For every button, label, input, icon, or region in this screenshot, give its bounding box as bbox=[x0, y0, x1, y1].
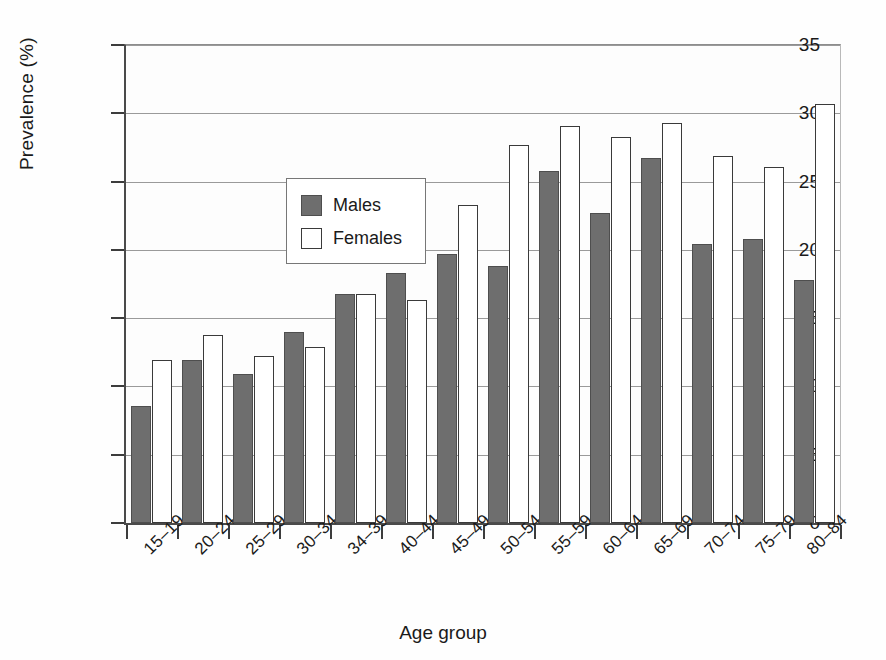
bar-males-45-49 bbox=[437, 254, 458, 523]
bar-males-40-44 bbox=[386, 273, 407, 523]
bar-females-50-54 bbox=[509, 145, 530, 523]
bar-females-30-34 bbox=[305, 347, 326, 523]
y-axis-tick bbox=[111, 249, 124, 251]
bar-males-15-19 bbox=[131, 406, 152, 523]
bar-males-20-24 bbox=[182, 360, 203, 523]
bar-males-65-69 bbox=[641, 158, 662, 523]
bar-females-25-29 bbox=[254, 356, 275, 523]
bar-females-40-44 bbox=[407, 300, 428, 523]
bar-females-80-84 bbox=[815, 104, 836, 523]
bar-males-75-79 bbox=[743, 239, 764, 523]
bar-females-55-59 bbox=[560, 126, 581, 523]
bar-males-34-39 bbox=[335, 294, 356, 523]
legend: Males Females bbox=[286, 178, 426, 264]
bar-females-70-74 bbox=[713, 156, 734, 523]
y-axis-tick bbox=[111, 317, 124, 319]
legend-swatch-females bbox=[301, 228, 322, 249]
legend-item-females: Females bbox=[301, 222, 425, 255]
bar-males-70-74 bbox=[692, 244, 713, 523]
plot-area: 05101520253035 15–1920–2425–2930–3434–39… bbox=[124, 44, 841, 525]
bar-males-55-59 bbox=[539, 171, 560, 523]
y-axis-tick bbox=[111, 385, 124, 387]
x-axis-title: Age group bbox=[0, 622, 886, 644]
bar-chart-figure: Prevalence (%) 05101520253035 15–1920–24… bbox=[0, 0, 886, 660]
y-axis-tick bbox=[111, 181, 124, 183]
y-axis-tick bbox=[111, 44, 124, 46]
legend-item-males: Males bbox=[301, 189, 425, 222]
y-axis-tick bbox=[111, 112, 124, 114]
bars-layer bbox=[126, 45, 840, 523]
bar-males-25-29 bbox=[233, 374, 254, 523]
bar-females-75-79 bbox=[764, 167, 785, 523]
bar-females-34-39 bbox=[356, 294, 377, 523]
bar-females-60-64 bbox=[611, 137, 632, 523]
bar-males-60-64 bbox=[590, 213, 611, 523]
legend-label-females: Females bbox=[333, 228, 402, 249]
bar-females-65-69 bbox=[662, 123, 683, 523]
bar-males-50-54 bbox=[488, 266, 509, 523]
bar-females-15-19 bbox=[152, 360, 173, 523]
legend-label-males: Males bbox=[333, 195, 381, 216]
x-axis-tick bbox=[126, 525, 128, 539]
y-axis-title: Prevalence (%) bbox=[16, 0, 38, 170]
bar-females-45-49 bbox=[458, 205, 479, 523]
bar-males-80-84 bbox=[794, 280, 815, 523]
y-axis-tick bbox=[111, 454, 124, 456]
bar-females-20-24 bbox=[203, 335, 224, 523]
bar-males-30-34 bbox=[284, 332, 305, 523]
y-axis-tick bbox=[111, 522, 124, 524]
legend-swatch-males bbox=[301, 195, 322, 216]
